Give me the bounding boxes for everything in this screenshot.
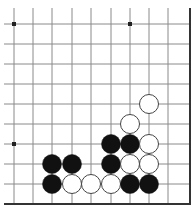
black-stone — [121, 135, 140, 154]
black-stone — [102, 155, 121, 174]
white-stone — [121, 155, 140, 174]
board-edges — [4, 8, 191, 205]
black-stone — [140, 175, 159, 194]
white-stone — [140, 135, 159, 154]
star-point-icon — [12, 142, 16, 146]
white-stone — [63, 175, 82, 194]
white-stone — [102, 175, 121, 194]
black-stone — [102, 135, 121, 154]
star-point-icon — [12, 22, 16, 26]
black-stone — [43, 175, 62, 194]
white-stone — [140, 155, 159, 174]
grid-lines — [4, 8, 190, 204]
go-board[interactable] — [0, 0, 193, 215]
white-stone — [82, 175, 101, 194]
white-stone — [140, 95, 159, 114]
white-stone — [121, 115, 140, 134]
black-stone — [63, 155, 82, 174]
black-stone — [121, 175, 140, 194]
star-point-icon — [128, 22, 132, 26]
black-stone — [43, 155, 62, 174]
go-board-grid — [0, 0, 193, 215]
